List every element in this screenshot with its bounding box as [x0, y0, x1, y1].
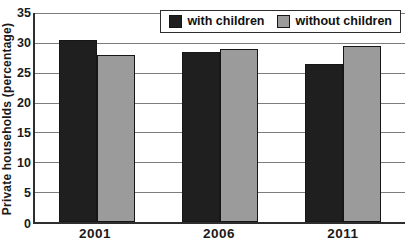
- bar-with-children-2001: [59, 40, 97, 222]
- y-axis-ticks: 05101520253035: [12, 13, 31, 224]
- bar-chart: Private households (percentage) 05101520…: [0, 0, 408, 245]
- bar-without-children-2001: [97, 55, 135, 222]
- bar-group-2006: [158, 13, 281, 222]
- x-axis-labels: 200120062011: [33, 226, 405, 245]
- legend-item-without-children: without children: [277, 14, 392, 28]
- y-tick-label-10: 10: [17, 157, 31, 170]
- legend-label-without-children: without children: [295, 14, 392, 28]
- y-tick-label-30: 30: [17, 37, 31, 50]
- legend-swatch-with-children: [169, 15, 182, 28]
- y-tick-label-25: 25: [17, 67, 31, 80]
- bar-group-2001: [35, 13, 158, 222]
- legend-label-with-children: with children: [187, 14, 264, 28]
- x-tick-label-2001: 2001: [33, 226, 157, 245]
- legend-item-with-children: with children: [169, 14, 264, 28]
- bar-with-children-2011: [305, 64, 343, 222]
- y-tick-label-5: 5: [24, 188, 31, 201]
- bar-with-children-2006: [182, 52, 220, 222]
- legend: with children without children: [160, 10, 401, 33]
- x-tick-label-2006: 2006: [157, 226, 281, 245]
- y-tick-label-0: 0: [24, 218, 31, 231]
- plot-area: [33, 13, 405, 224]
- y-tick-label-15: 15: [17, 127, 31, 140]
- bar-without-children-2011: [343, 46, 381, 222]
- bar-group-2011: [282, 13, 405, 222]
- legend-swatch-without-children: [277, 15, 290, 28]
- y-tick-label-20: 20: [17, 97, 31, 110]
- x-tick-label-2011: 2011: [281, 226, 405, 245]
- bar-without-children-2006: [220, 49, 258, 222]
- y-tick-label-35: 35: [17, 7, 31, 20]
